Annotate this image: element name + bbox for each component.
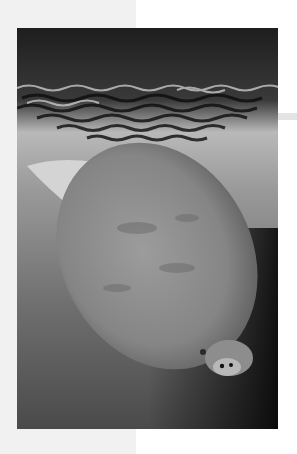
- photo-art: [17, 28, 278, 429]
- manatee-photo: [17, 28, 278, 429]
- side-strip: [278, 113, 297, 120]
